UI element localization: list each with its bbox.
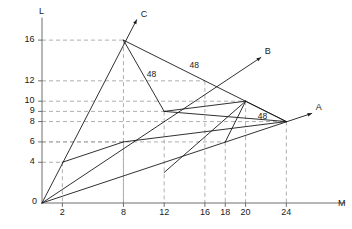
x-tick-label-16: 16 <box>200 207 210 217</box>
ray-label-C: C <box>141 9 148 19</box>
y-tick-label-6: 6 <box>30 136 35 146</box>
graph-figure: LM02812161820244689101216ABC484848 <box>0 0 352 229</box>
seg-12-9-to-24-8 <box>164 111 286 121</box>
x-tick-label-12: 12 <box>159 207 169 217</box>
ray-arrowhead-B <box>256 57 261 61</box>
y-tick-label-12: 12 <box>25 75 35 85</box>
x-tick-label-2: 2 <box>60 207 65 217</box>
ray-label-A: A <box>316 102 322 112</box>
ray-B <box>42 57 261 203</box>
isoquant-value-label-0: 48 <box>190 60 199 70</box>
y-axis-label: L <box>39 6 44 16</box>
seg-18-6-to-20-10 <box>225 101 245 142</box>
x-tick-label-18: 18 <box>220 207 230 217</box>
ray-label-B: B <box>265 46 271 56</box>
isoquant-line-1 <box>123 40 164 111</box>
y-tick-label-4: 4 <box>30 156 35 166</box>
y-tick-label-10: 10 <box>25 95 35 105</box>
x-tick-label-24: 24 <box>281 207 291 217</box>
plot-canvas <box>0 0 352 229</box>
origin-label: 0 <box>32 196 37 206</box>
x-axis-label: M <box>338 198 346 208</box>
y-tick-label-9: 9 <box>30 105 35 115</box>
ray-A <box>42 113 312 203</box>
x-tick-label-20: 20 <box>241 207 251 217</box>
ray-arrowhead-A <box>307 113 312 117</box>
isoquant-value-label-1: 48 <box>147 69 156 79</box>
x-tick-label-8: 8 <box>121 207 126 217</box>
y-tick-label-8: 8 <box>30 116 35 126</box>
y-tick-label-16: 16 <box>25 34 35 44</box>
isoquant-value-label-2: 48 <box>258 111 267 121</box>
